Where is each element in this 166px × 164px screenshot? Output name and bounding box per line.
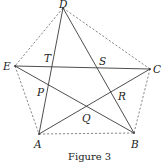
label-P: P [36, 86, 45, 98]
edge-CD [63, 8, 150, 69]
diagonal-DB [63, 8, 134, 133]
diagonal-AC [39, 69, 150, 134]
vertex-dot-B [133, 132, 135, 134]
vertex-dot-C [149, 68, 151, 70]
label-R: R [117, 90, 126, 102]
label-E: E [2, 60, 11, 72]
edge-BC [134, 69, 150, 133]
label-B: B [130, 138, 139, 150]
vertex-dot-A [38, 133, 40, 135]
pentagram-diagram: D E C A B T S P R Q Figure 3 [0, 0, 166, 164]
diagonal-EC [15, 66, 150, 69]
label-A: A [33, 138, 42, 150]
edge-DE [15, 8, 63, 66]
label-S: S [99, 55, 106, 67]
label-C: C [153, 63, 161, 75]
label-Q: Q [82, 112, 91, 125]
edge-EA [15, 66, 39, 134]
diagonal-AD [39, 8, 63, 134]
edge-AB [39, 133, 134, 134]
label-D: D [58, 0, 68, 10]
figure-caption: Figure 3 [68, 151, 111, 162]
label-T: T [44, 52, 52, 64]
diagonal-EB [15, 66, 134, 133]
vertex-dot-E [14, 65, 16, 67]
